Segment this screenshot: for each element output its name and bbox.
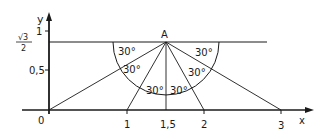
angle-label-5: 30°	[188, 67, 206, 78]
angle-label-6: 30°	[195, 47, 213, 58]
x-tick-3: 3	[278, 120, 284, 131]
x-arrow-icon	[305, 107, 314, 113]
angle-label-2: 30°	[123, 64, 141, 75]
y-tick-0-5: 0,5	[29, 65, 45, 76]
x-axis-label: x	[299, 115, 305, 126]
y-tick-1: 1	[36, 26, 42, 37]
sqrt3-denominator: 2	[21, 44, 26, 53]
x-tick-0: 0	[38, 115, 44, 126]
angle-label-4: 30°	[170, 85, 188, 96]
angle-label-3: 30°	[146, 85, 164, 96]
point-a-label: A	[161, 29, 168, 40]
x-axis	[22, 107, 314, 113]
diagram-canvas: y 1 √3 2 0,5 0 1 1,5 2 3 x A 30° 30° 30°…	[0, 0, 328, 139]
x-tick-2: 2	[201, 119, 207, 130]
y-axis-label: y	[37, 13, 44, 26]
rays	[49, 42, 281, 110]
x-tick-1: 1	[124, 119, 130, 130]
y-axis	[46, 12, 52, 114]
y-arrow-icon	[46, 12, 52, 21]
x-tick-1-5: 1,5	[160, 119, 176, 130]
sqrt3-numerator: √3	[18, 33, 28, 42]
angle-label-1: 30°	[118, 46, 136, 57]
